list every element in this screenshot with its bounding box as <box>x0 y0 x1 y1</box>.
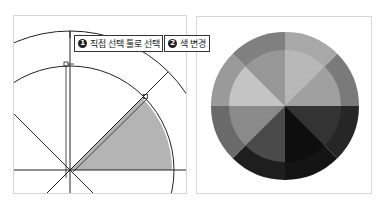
callout-change-color: 2 색 변경 <box>164 35 210 52</box>
anchor-point-handle <box>64 62 68 66</box>
callout-label: 색 변경 <box>180 37 206 50</box>
callout-direct-selection: 1 직접 선택 툴로 선택 <box>74 35 163 52</box>
after-color-wheel-panel <box>196 16 372 194</box>
step-number-1-icon: 1 <box>78 39 87 48</box>
grayscale-color-wheel <box>197 17 372 194</box>
step-number-2-icon: 2 <box>168 39 177 48</box>
selected-wedge <box>70 98 172 170</box>
callout-label: 직접 선택 툴로 선택 <box>90 37 159 50</box>
